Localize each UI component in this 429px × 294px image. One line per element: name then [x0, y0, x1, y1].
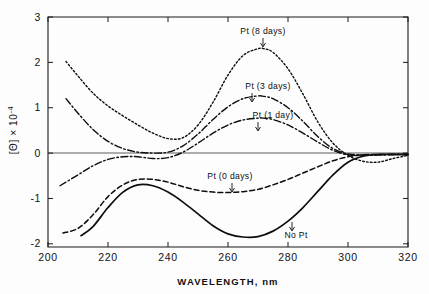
- cd-spectra-plot: 200220240260280300320 -2-10123 WAVELENGT…: [0, 0, 429, 294]
- y-axis-tick-labels: -2-10123: [30, 11, 41, 250]
- annotation-3days-label: Pt (3 days): [245, 81, 290, 91]
- y-tick-label: -2: [30, 237, 41, 249]
- y-tick-label: -1: [30, 192, 41, 204]
- annotation-3days: Pt (3 days): [245, 81, 290, 102]
- annotation-nopt: No Pt: [284, 222, 308, 240]
- annotation-1day: Pt (1 day): [253, 110, 294, 131]
- curve-pt-8-days: [66, 48, 408, 162]
- annotation-0days-label: Pt (0 days): [207, 171, 252, 181]
- x-tick-label: 320: [398, 251, 417, 263]
- y-tick-label: 2: [35, 56, 41, 68]
- x-tick-label: 220: [98, 251, 117, 263]
- x-tick-label: 240: [158, 251, 177, 263]
- chart-figure: 200220240260280300320 -2-10123 WAVELENGT…: [0, 0, 429, 294]
- x-tick-label: 300: [338, 251, 357, 263]
- y-axis-ticks: [48, 17, 408, 244]
- annotation-1day-label: Pt (1 day): [253, 110, 294, 120]
- x-tick-label: 280: [278, 251, 297, 263]
- y-axis-title-text: [Θ] × 10: [8, 114, 19, 155]
- plot-frame: [48, 17, 408, 247]
- annotation-8days: Pt (8 days): [240, 26, 285, 47]
- curve-pt-3-days: [66, 96, 408, 155]
- x-tick-label: 260: [218, 251, 237, 263]
- y-tick-label: 3: [35, 11, 41, 23]
- curve-no-pt: [81, 154, 408, 237]
- svg-text:[Θ] × 10-4: [Θ] × 10-4: [6, 106, 19, 155]
- y-axis-title-exponent: -4: [6, 106, 15, 114]
- annotation-8days-label: Pt (8 days): [240, 26, 285, 36]
- curve-pt-0-days: [63, 154, 408, 233]
- annotation-0days: Pt (0 days): [207, 171, 252, 192]
- data-series-group: [60, 48, 408, 237]
- x-axis-title: WAVELENGTH, nm: [177, 276, 278, 287]
- y-tick-label: 0: [35, 147, 41, 159]
- x-axis-ticks: [48, 17, 408, 247]
- y-axis-title: [Θ] × 10-4: [6, 106, 19, 155]
- y-tick-label: 1: [35, 101, 41, 113]
- x-tick-label: 200: [38, 251, 57, 263]
- annotation-nopt-label: No Pt: [284, 230, 308, 240]
- x-axis-tick-labels: 200220240260280300320: [38, 251, 417, 263]
